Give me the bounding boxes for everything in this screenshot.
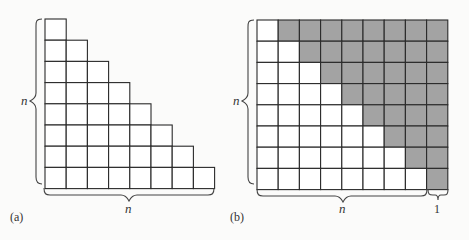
shaded-cell [405, 147, 426, 168]
label-n-horizontal-b: n [339, 201, 346, 216]
white-cell [321, 147, 342, 168]
shaded-cell [384, 41, 405, 62]
white-cell [299, 147, 320, 168]
shaded-cell [342, 41, 363, 62]
staircase-cell [151, 125, 172, 146]
staircase-cell [45, 104, 66, 125]
shaded-cell [363, 84, 384, 105]
white-cell [405, 168, 426, 189]
staircase-cell [172, 146, 193, 167]
shaded-cell [363, 41, 384, 62]
white-cell [278, 62, 299, 83]
white-cell [342, 126, 363, 147]
shaded-cell [427, 84, 448, 105]
white-cell [278, 84, 299, 105]
shaded-cell [363, 20, 384, 41]
panel-a-staircase [45, 19, 215, 189]
vertical-brace-b [242, 20, 254, 184]
white-cell [278, 105, 299, 126]
staircase-cell [87, 104, 108, 125]
shaded-cell [405, 126, 426, 147]
shaded-cell [321, 20, 342, 41]
shaded-cell [427, 147, 448, 168]
white-cell [321, 84, 342, 105]
staircase-cell [193, 167, 214, 188]
staircase-cell [109, 125, 130, 146]
white-cell [363, 147, 384, 168]
panel-b-rectangle [257, 20, 448, 190]
white-cell [257, 168, 278, 189]
shaded-cell [384, 84, 405, 105]
white-cell [363, 168, 384, 189]
shaded-cell [427, 20, 448, 41]
staircase-cell [87, 61, 108, 82]
staircase-cell [130, 125, 151, 146]
staircase-cell [66, 40, 87, 61]
shaded-cell [427, 105, 448, 126]
shaded-cell [384, 126, 405, 147]
horizontal-brace-b-1 [428, 189, 448, 200]
white-cell [257, 126, 278, 147]
shaded-cell [405, 41, 426, 62]
staircase-cell [87, 125, 108, 146]
staircase-cell [45, 19, 66, 40]
white-cell [321, 168, 342, 189]
staircase-cell [109, 83, 130, 104]
white-cell [299, 168, 320, 189]
shaded-cell [342, 62, 363, 83]
staircase-cell [45, 125, 66, 146]
shaded-cell [278, 20, 299, 41]
shaded-cell [363, 105, 384, 126]
shaded-cell [342, 84, 363, 105]
staircase-cell [109, 167, 130, 188]
shaded-cell [342, 20, 363, 41]
staircase-cell [45, 83, 66, 104]
staircase-cell [130, 146, 151, 167]
shaded-cell [427, 62, 448, 83]
shaded-cell [384, 105, 405, 126]
white-cell [342, 168, 363, 189]
label-n-vertical-a: n [21, 93, 28, 108]
white-cell [299, 105, 320, 126]
diagram-canvas: n n (a) n n 1 (b) [0, 0, 469, 240]
white-cell [299, 126, 320, 147]
white-cell [342, 147, 363, 168]
white-cell [384, 147, 405, 168]
shaded-cell [321, 41, 342, 62]
shaded-cell [384, 20, 405, 41]
staircase-cell [109, 104, 130, 125]
white-cell [257, 41, 278, 62]
staircase-cell [45, 61, 66, 82]
white-cell [278, 41, 299, 62]
staircase-cell [87, 146, 108, 167]
shaded-cell [363, 62, 384, 83]
white-cell [342, 105, 363, 126]
shaded-cell [405, 62, 426, 83]
shaded-cell [299, 20, 320, 41]
staircase-cell [87, 83, 108, 104]
white-cell [257, 84, 278, 105]
shaded-cell [427, 126, 448, 147]
staircase-cell [87, 167, 108, 188]
shaded-cell [405, 105, 426, 126]
shaded-cell [427, 168, 448, 189]
staircase-cell [109, 146, 130, 167]
white-cell [321, 105, 342, 126]
horizontal-brace-a [44, 188, 214, 201]
shaded-cell [405, 20, 426, 41]
staircase-cell [66, 61, 87, 82]
white-cell [278, 147, 299, 168]
staircase-cell [66, 104, 87, 125]
staircase-cell [151, 167, 172, 188]
white-cell [278, 126, 299, 147]
staircase-cell [130, 167, 151, 188]
staircase-cell [45, 40, 66, 61]
caption-b: (b) [230, 210, 244, 224]
staircase-cell [45, 146, 66, 167]
white-cell [321, 126, 342, 147]
shaded-cell [299, 41, 320, 62]
white-cell [299, 62, 320, 83]
white-cell [257, 105, 278, 126]
white-cell [257, 20, 278, 41]
white-cell [299, 84, 320, 105]
